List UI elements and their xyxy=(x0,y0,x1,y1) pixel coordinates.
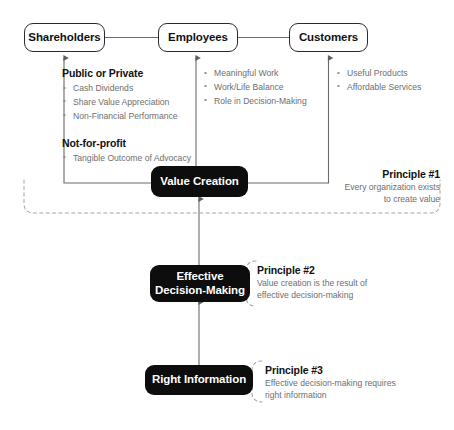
details-shareholders-heading-nonprofit: Not-for-profit xyxy=(62,137,191,149)
details-customers: Useful Products Affordable Services xyxy=(336,67,421,95)
principle-1-body: Every organization exists to create valu… xyxy=(295,182,440,206)
list-item: Share Value Appreciation xyxy=(62,96,191,110)
details-employees-list: Meaningful Work Work/Life Balance Role i… xyxy=(203,67,307,109)
principle-3-body: Effective decision-making requires right… xyxy=(265,378,450,402)
list-item: Work/Life Balance xyxy=(203,81,307,95)
node-effective-decision-making-label-line2: Decision-Making xyxy=(155,284,245,297)
node-employees-label: Employees xyxy=(168,31,228,44)
details-shareholders-heading-public: Public or Private xyxy=(62,67,191,79)
details-employees: Meaningful Work Work/Life Balance Role i… xyxy=(203,67,307,109)
list-item: Meaningful Work xyxy=(203,67,307,81)
node-customers[interactable]: Customers xyxy=(289,23,368,52)
list-item: Cash Dividends xyxy=(62,82,191,96)
node-customers-label: Customers xyxy=(299,31,358,44)
node-right-information[interactable]: Right Information xyxy=(145,365,253,395)
list-item: Affordable Services xyxy=(336,81,421,95)
list-item: Useful Products xyxy=(336,67,421,81)
details-shareholders-list-public: Cash Dividends Share Value Appreciation … xyxy=(62,82,191,124)
node-right-information-label: Right Information xyxy=(152,373,246,386)
principle-3-title: Principle #3 xyxy=(265,364,450,376)
node-value-creation-label: Value Creation xyxy=(160,175,239,188)
diagram-canvas: Shareholders Employees Customers Public … xyxy=(0,0,454,430)
principle-2-body: Value creation is the result of effectiv… xyxy=(257,278,432,302)
node-value-creation[interactable]: Value Creation xyxy=(151,166,248,197)
node-shareholders-label: Shareholders xyxy=(28,31,100,44)
list-item: Tangible Outcome of Advocacy xyxy=(62,152,191,166)
principle-1-title: Principle #1 xyxy=(295,168,440,180)
node-employees[interactable]: Employees xyxy=(158,23,238,52)
principle-1: Principle #1 Every organization exists t… xyxy=(295,168,440,206)
principle-2-title: Principle #2 xyxy=(257,264,432,276)
principle-3: Principle #3 Effective decision-making r… xyxy=(265,364,450,402)
node-shareholders[interactable]: Shareholders xyxy=(24,23,105,52)
details-customers-list: Useful Products Affordable Services xyxy=(336,67,421,95)
details-shareholders-list-nonprofit: Tangible Outcome of Advocacy xyxy=(62,152,191,166)
node-effective-decision-making[interactable]: Effective Decision-Making xyxy=(150,265,250,302)
bracket-principle-3 xyxy=(252,361,262,402)
list-item: Non-Financial Performance xyxy=(62,110,191,124)
principle-2: Principle #2 Value creation is the resul… xyxy=(257,264,432,302)
list-item: Role in Decision-Making xyxy=(203,95,307,109)
details-shareholders: Public or Private Cash Dividends Share V… xyxy=(62,67,191,166)
node-effective-decision-making-label-line1: Effective xyxy=(176,270,223,283)
